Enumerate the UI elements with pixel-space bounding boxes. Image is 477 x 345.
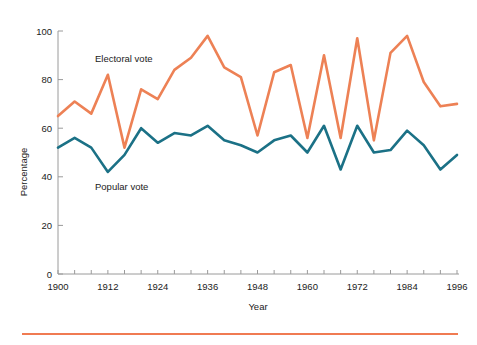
x-tick-label-1972: 1972 bbox=[347, 281, 368, 292]
x-tick-label-1924: 1924 bbox=[147, 281, 168, 292]
x-tick-label-1936: 1936 bbox=[197, 281, 218, 292]
x-axis-title: Year bbox=[248, 301, 267, 312]
x-tick-label-1960: 1960 bbox=[297, 281, 318, 292]
x-tick-label-1984: 1984 bbox=[397, 281, 418, 292]
y-tick-label-100: 100 bbox=[36, 26, 52, 37]
y-tick-label-20: 20 bbox=[41, 220, 52, 231]
line-chart: 100 80 60 40 20 0 1900191219241936194819… bbox=[0, 0, 477, 345]
y-tick-label-0: 0 bbox=[47, 269, 52, 280]
footer-rule bbox=[22, 333, 458, 335]
y-axis-title: Percentage bbox=[18, 148, 29, 197]
x-tick-label-1900: 1900 bbox=[47, 281, 68, 292]
chart-figure: 100 80 60 40 20 0 1900191219241936194819… bbox=[0, 0, 477, 345]
y-tick-label-60: 60 bbox=[41, 123, 52, 134]
y-tick-marks bbox=[58, 31, 63, 274]
electoral-vote-annotation: Electoral vote bbox=[95, 53, 153, 64]
x-tick-label-1996: 1996 bbox=[446, 281, 467, 292]
x-tick-labels: 190019121924193619481960197219841996 bbox=[47, 281, 467, 292]
popular-vote-annotation: Popular vote bbox=[95, 181, 148, 192]
x-tick-label-1912: 1912 bbox=[97, 281, 118, 292]
y-tick-label-80: 80 bbox=[41, 74, 52, 85]
y-tick-label-40: 40 bbox=[41, 171, 52, 182]
x-tick-marks bbox=[58, 270, 457, 274]
x-tick-label-1948: 1948 bbox=[247, 281, 268, 292]
